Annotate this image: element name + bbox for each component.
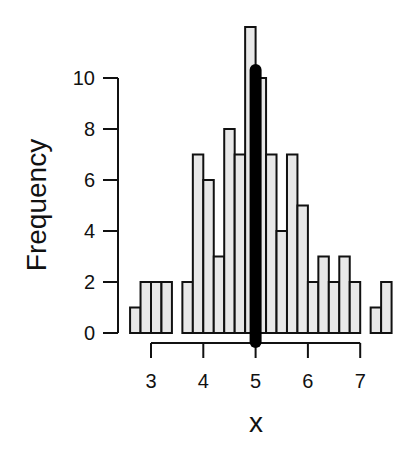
x-axis: 34567 bbox=[145, 343, 365, 392]
x-tick-label: 3 bbox=[145, 370, 156, 392]
histogram-bar bbox=[214, 257, 224, 334]
histogram-bar bbox=[381, 282, 391, 333]
histogram-bar bbox=[182, 282, 192, 333]
y-tick-label: 2 bbox=[84, 271, 95, 293]
histogram-bar bbox=[130, 308, 140, 334]
histogram-bar bbox=[371, 308, 381, 334]
y-axis: 0246810 bbox=[73, 67, 118, 344]
histogram-bar bbox=[266, 155, 276, 334]
histogram-bar bbox=[224, 129, 234, 333]
histogram-bar bbox=[161, 282, 171, 333]
histogram-bar bbox=[151, 282, 161, 333]
y-tick-label: 6 bbox=[84, 169, 95, 191]
y-tick-label: 8 bbox=[84, 118, 95, 140]
histogram-bar bbox=[235, 155, 245, 334]
histogram-bar bbox=[350, 282, 360, 333]
y-tick-label: 0 bbox=[84, 322, 95, 344]
histogram-bar bbox=[277, 231, 287, 333]
histogram-bar bbox=[297, 206, 307, 334]
histogram-bar bbox=[287, 155, 297, 334]
histogram-bar bbox=[339, 257, 349, 334]
y-tick-label: 4 bbox=[84, 220, 95, 242]
x-tick-label: 6 bbox=[302, 370, 313, 392]
x-tick-label: 5 bbox=[250, 370, 261, 392]
x-tick-label: 7 bbox=[355, 370, 366, 392]
histogram-bar bbox=[308, 282, 318, 333]
histogram-bar bbox=[329, 282, 339, 333]
x-axis-title: x bbox=[249, 407, 263, 438]
x-tick-label: 4 bbox=[198, 370, 209, 392]
y-axis-title: Frequency bbox=[21, 139, 52, 271]
histogram-chart: 0246810 34567 Frequency x bbox=[0, 0, 414, 454]
histogram-bar bbox=[141, 282, 151, 333]
histogram-bar bbox=[203, 180, 213, 333]
y-tick-label: 10 bbox=[73, 67, 95, 89]
histogram-bar bbox=[318, 257, 328, 334]
histogram-bar bbox=[193, 155, 203, 334]
